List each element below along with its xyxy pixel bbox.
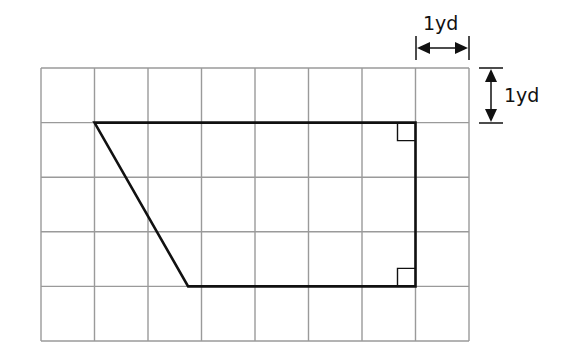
arrowhead-down (485, 109, 497, 122)
trapezoid-grid-diagram: 1yd 1yd (0, 0, 573, 354)
horizontal-scale-label: 1yd (423, 12, 458, 34)
right-angle-marker (398, 123, 416, 141)
arrowhead-left (417, 42, 430, 54)
horizontal-scale-indicator: 1yd (416, 12, 469, 60)
arrowhead-right (455, 42, 468, 54)
right-angle-marker (398, 268, 416, 286)
vertical-scale-indicator: 1yd (479, 68, 539, 123)
arrowhead-up (485, 69, 497, 82)
grid (41, 68, 469, 341)
right-angle-markers (398, 123, 416, 287)
vertical-scale-label: 1yd (504, 84, 539, 106)
